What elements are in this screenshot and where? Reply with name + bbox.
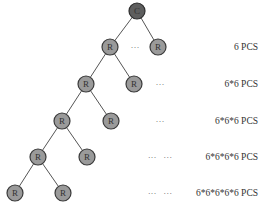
ellipsis: ··· xyxy=(131,42,140,52)
count-label-l2: 6*6 PCS xyxy=(224,79,258,89)
node-label: R xyxy=(84,152,90,162)
node-l4-left: R xyxy=(30,149,46,165)
level-3: R R ··· 6*6*6 PCS xyxy=(54,113,258,129)
node-l3-right: R xyxy=(103,113,119,129)
node-label: R xyxy=(35,152,41,162)
node-l1-left: R xyxy=(102,39,118,55)
count-label-l4: 6*6*6*6 PCS xyxy=(205,152,258,162)
node-l3-left: R xyxy=(54,113,70,129)
root-node-label: C xyxy=(134,6,140,16)
node-l2-right: R xyxy=(126,76,142,92)
ellipsis: ··· ··· xyxy=(148,188,173,198)
count-label-l5: 6*6*6*6*6 PCS xyxy=(196,188,258,198)
level-2: R R ··· 6*6 PCS xyxy=(78,76,258,92)
node-label: R xyxy=(108,116,114,126)
node-label: R xyxy=(83,79,89,89)
node-l2-left: R xyxy=(78,76,94,92)
node-label: R xyxy=(12,188,18,198)
ellipsis: ··· xyxy=(156,79,165,89)
node-label: R xyxy=(59,116,65,126)
tree-diagram: C R ··· R 6 PCS R R ··· 6*6 PCS R xyxy=(0,0,263,207)
node-l5-left: R xyxy=(7,185,23,201)
node-label: R xyxy=(131,79,137,89)
count-label-l3: 6*6*6 PCS xyxy=(215,116,258,126)
node-label: R xyxy=(60,188,66,198)
node-label: R xyxy=(155,42,161,52)
node-label: R xyxy=(107,42,113,52)
node-l4-right: R xyxy=(79,149,95,165)
node-l5-right: R xyxy=(55,185,71,201)
root-node: C xyxy=(129,3,145,19)
ellipsis: ··· ··· xyxy=(148,152,173,162)
node-l1-right: R xyxy=(150,39,166,55)
edges xyxy=(15,11,158,193)
count-label-l1: 6 PCS xyxy=(234,42,258,52)
level-4: R R ··· ··· 6*6*6*6 PCS xyxy=(30,149,258,165)
level-5: R R ··· ··· 6*6*6*6*6 PCS xyxy=(7,185,258,201)
ellipsis: ··· xyxy=(156,116,165,126)
level-1: R ··· R 6 PCS xyxy=(102,39,258,55)
